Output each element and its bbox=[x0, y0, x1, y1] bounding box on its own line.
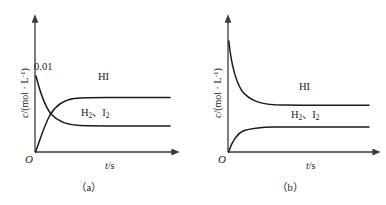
x-axis-title: t/s bbox=[306, 161, 315, 171]
origin-label: O bbox=[25, 154, 33, 165]
initial-concentration-label: 0.01 bbox=[34, 62, 52, 73]
curve-h2-i2 bbox=[229, 127, 370, 152]
series-label-h2-i2: H2、I2 bbox=[291, 110, 320, 121]
y-axis-title: c/(mol · L-1) bbox=[213, 68, 223, 118]
origin-label: O bbox=[218, 154, 226, 165]
curve-hi bbox=[36, 98, 171, 152]
series-label-hi: HI bbox=[299, 82, 310, 93]
series-label-h2-i2: H2、I2 bbox=[81, 108, 110, 119]
curve-hi bbox=[229, 41, 369, 105]
x-axis-title: t/s bbox=[105, 161, 114, 171]
panel-caption-a: （a） bbox=[76, 183, 102, 194]
y-axis-title: c/(mol · L-1) bbox=[20, 68, 30, 118]
panel-caption-b: （b） bbox=[277, 183, 303, 194]
series-label-hi: HI bbox=[98, 72, 109, 83]
panel-a: c/(mol · L-1) 0.01 HI H2、I2 O t/s （a） bbox=[0, 0, 193, 205]
panel-b: c/(mol · L-1) HI H2、I2 O t/s （b） bbox=[193, 0, 386, 205]
figure-root: c/(mol · L-1) 0.01 HI H2、I2 O t/s （a） bbox=[0, 0, 386, 205]
